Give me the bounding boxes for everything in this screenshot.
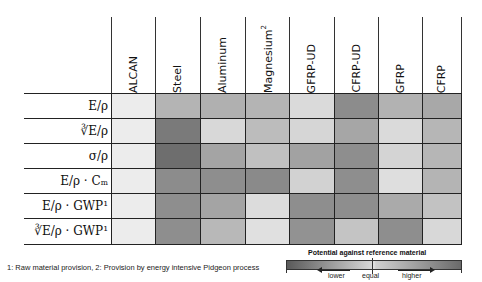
column-header-gfrp: GFRP [378,17,422,93]
column-header-alcan: ALCAN [111,17,155,93]
matrix-cell [111,168,156,194]
column-divider [200,17,201,93]
column-header-cfrp-ud: CFRP-UD [334,17,378,93]
matrix-cell [422,143,462,169]
matrix-cell [334,193,379,219]
column-divider [461,17,462,93]
legend-gradient-bar [286,260,462,270]
column-divider [111,17,112,93]
column-label-text: GFRP [394,64,407,93]
column-divider [289,17,290,93]
matrix-cell [155,93,201,119]
legend-right-tick [461,266,462,273]
matrix-cell [155,143,201,169]
column-label-text: CFRP-UD [350,44,363,93]
matrix-cell [378,93,423,119]
matrix-cell [155,218,201,245]
legend-title: Potential against reference material [308,249,426,256]
row-divider [24,143,111,144]
row-divider [24,118,111,119]
matrix-cell [334,118,379,144]
matrix-cell [245,93,290,119]
column-header-steel: Steel [155,17,200,93]
legend-left-tick [286,266,287,273]
right-arrowhead-icon [430,267,435,273]
column-divider [378,17,379,93]
column-header-label: Steel [171,61,184,93]
matrix-cell [289,143,335,169]
matrix-cell [289,93,335,119]
matrix-cell [111,143,156,169]
matrix-cell [200,193,246,219]
matrix-cell [200,218,246,245]
footnote: 1: Raw material provision, 2: Provision … [7,263,259,272]
matrix-cell [334,93,379,119]
matrix-cell [378,143,423,169]
column-header-gfrp-ud: GFRP-UD [289,17,334,93]
legend-lower-label: lower [328,272,345,279]
lower-arrow-icon [320,270,350,271]
column-header-cfrp: CFRP [422,17,461,93]
higher-arrow-icon [398,270,430,271]
row-label: E/ρ · Cₘ [24,168,108,193]
matrix-cell [378,193,423,219]
matrix-cell [422,93,462,119]
legend-equal-label: equal [362,272,379,279]
row-label: E/ρ · GWP¹ [24,193,108,218]
matrix-cell [422,168,462,194]
row-divider [24,193,111,194]
column-header-magnesium: Magnesium2 [245,17,289,93]
matrix-cell [289,193,335,219]
matrix-cell [245,218,290,245]
column-header-label: GFRP [394,60,407,93]
column-label-text: Steel [171,65,184,93]
matrix-cell [422,218,462,245]
matrix-cell [155,193,201,219]
column-divider [155,17,156,93]
matrix-cell [245,143,290,169]
matrix-cell [200,93,246,119]
column-divider [334,17,335,93]
matrix-cell [289,118,335,144]
left-arrowhead-icon [317,267,322,273]
column-header-label: GFRP-UD [305,40,318,93]
row-divider [24,244,111,245]
column-header-label: CFRP [435,61,448,93]
matrix-cell [334,168,379,194]
row-divider [24,218,111,219]
row-divider [24,93,111,94]
matrix-cell [111,118,156,144]
matrix-cell [378,118,423,144]
row-label: ∛E/ρ · GWP¹ [24,218,108,243]
column-label-text: Aluminum [216,37,229,93]
matrix-cell [111,218,156,245]
matrix-cell [378,168,423,194]
column-header-label: Aluminum [216,33,229,93]
column-header-label: ALCAN [127,52,140,93]
matrix-cell [200,168,246,194]
column-header-label: Magnesium2 [260,21,275,93]
matrix-cell [245,168,290,194]
matrix-cell [289,218,335,245]
matrix-cell [334,218,379,245]
column-label-text: Magnesium [261,30,274,93]
column-divider [245,17,246,93]
legend-higher-label: higher [402,272,421,279]
matrix-cell [155,168,201,194]
matrix-cell [422,193,462,219]
row-label: E/ρ [24,93,108,118]
matrix-cell [245,193,290,219]
column-label-text: CFRP [435,65,448,93]
row-divider [24,168,111,169]
column-label-text: ALCAN [127,56,140,93]
matrix-cell [111,93,156,119]
row-label: σ/ρ [24,143,108,168]
matrix-cell [200,118,246,144]
footnote-marker: 2 [260,25,268,29]
column-label-text: GFRP-UD [305,44,318,93]
column-header-label: CFRP-UD [350,40,363,93]
matrix-cell [245,118,290,144]
matrix-cell [111,193,156,219]
column-divider [422,17,423,93]
matrix-cell [289,168,335,194]
